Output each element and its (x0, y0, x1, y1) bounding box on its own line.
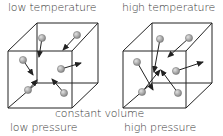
high-temperature-label: high temperature (122, 2, 215, 13)
gas-molecule (24, 80, 37, 94)
low-temperature-cube (8, 23, 98, 108)
constant-volume-label: constant volume (55, 108, 144, 119)
gas-molecule (133, 58, 153, 90)
molecule-ball-icon (73, 31, 80, 38)
gas-molecule (168, 34, 193, 57)
cube-edge (8, 23, 37, 51)
velocity-arrow-icon (176, 62, 203, 71)
cube-edge (123, 83, 152, 108)
gas-molecule (38, 34, 45, 57)
molecule-ball-icon (133, 58, 140, 65)
cube-edge (186, 83, 212, 108)
gas-molecule (172, 62, 203, 75)
gas-pressure-diagram: low temperature high temperature constan… (0, 0, 223, 136)
gas-molecule (52, 79, 68, 97)
molecule-ball-icon (138, 88, 145, 95)
molecule-ball-icon (19, 56, 26, 63)
low-temperature-label: low temperature (8, 2, 96, 13)
gas-molecule (57, 63, 81, 73)
cube-edge (8, 83, 37, 108)
velocity-arrow-icon (137, 62, 153, 90)
velocity-arrow-icon (142, 70, 160, 92)
gas-molecule (154, 35, 164, 72)
gas-molecule (63, 31, 81, 50)
cube-edge (123, 23, 152, 51)
molecule-ball-icon (185, 34, 192, 41)
cube-edge (72, 83, 98, 108)
low-pressure-label: low pressure (10, 122, 77, 133)
cube-back-face (37, 23, 98, 83)
molecule-ball-icon (24, 86, 31, 93)
molecule-ball-icon (57, 65, 64, 72)
velocity-arrow-icon (154, 39, 160, 72)
molecule-ball-icon (156, 35, 163, 42)
molecule-ball-icon (174, 89, 181, 96)
high-temperature-cube (123, 23, 212, 108)
molecule-ball-icon (60, 89, 67, 96)
gas-molecule (19, 56, 33, 75)
molecule-ball-icon (38, 34, 45, 41)
high-pressure-label: high pressure (124, 122, 196, 133)
molecule-ball-icon (172, 67, 179, 74)
